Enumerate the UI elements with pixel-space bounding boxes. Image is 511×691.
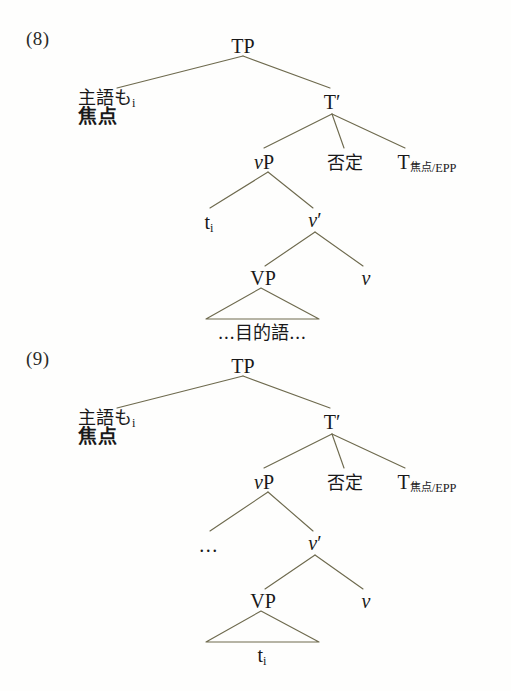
node-trace-spec-vp: ti [204,212,213,233]
node-big-vp: VP [250,591,276,612]
figure-9: (9) TP 主語もi 焦点 T′ vP 否定 T焦点/EPP ... v′ V… [0,345,511,691]
branch-vp-vbar [268,172,313,208]
little-v-letter: v [254,471,263,493]
t-head-letter: T [397,151,409,173]
trace-letter: t [257,644,263,666]
triangle-content-object: ...目的語... [218,322,306,343]
object-label: ...目的語... [218,322,306,343]
vbar-letter: v [308,532,317,554]
node-negation: 否定 [327,152,363,173]
page-canvas: (8) TP 主語もi 焦点 T′ vP 否定 T焦点/EPP ti v′ VP… [0,0,511,691]
branch-vp-spec [210,172,268,208]
trace-index: i [210,221,213,235]
triangle-content-trace: ti [257,645,266,666]
branch-vbar-v [315,232,363,266]
little-v-head-letter: v [362,267,371,289]
node-t-head: T焦点/EPP [397,152,456,173]
vbar-letter: v [308,209,317,231]
t-head-subscript-focus: 焦点 [410,161,432,174]
node-negation: 否定 [327,472,363,493]
subject-index: i [132,416,135,430]
branch-tp-subject [117,56,243,88]
node-ellipsis-spec-vp: ... [199,535,219,556]
branch-vbar-vp [265,555,315,589]
little-v-letter: v [254,151,263,173]
node-subject-spec-tp: 主語もi 焦点 [78,407,135,447]
example-number: (8) [26,28,50,50]
t-head-subscript-focus: 焦点 [410,481,432,494]
vbar-prime: ′ [317,209,321,231]
node-tbar: T′ [324,412,341,433]
node-t-head: T焦点/EPP [397,472,456,493]
node-big-vp: VP [250,268,276,289]
vbar-prime: ′ [317,532,321,554]
node-little-vp: vP [254,472,274,493]
little-v-head-letter: v [362,590,371,612]
triangle-vp [206,288,319,319]
branch-tp-tbar [243,56,330,88]
branch-tbar-t [332,434,405,468]
trace-index: i [263,654,266,668]
subject-focus-label: 焦点 [78,427,135,447]
branch-vbar-vp [265,232,315,266]
example-number: (9) [26,348,50,370]
node-vbar: v′ [308,210,321,231]
node-little-vp: vP [254,152,274,173]
branch-vp-spec [210,492,268,531]
subject-index: i [132,96,135,110]
negation-label: 否定 [327,472,363,493]
node-vbar: v′ [308,533,321,554]
t-head-letter: T [397,471,409,493]
t-head-subscript-epp: /EPP [432,161,457,175]
branch-tbar-t [332,114,405,148]
figure-8: (8) TP 主語もi 焦点 T′ vP 否定 T焦点/EPP ti v′ VP… [0,0,511,345]
p-letter: P [263,151,274,173]
node-little-v: v [362,591,371,612]
branch-vbar-v [315,555,363,589]
subject-focus-label: 焦点 [78,107,135,127]
t-head-subscript-epp: /EPP [432,481,457,495]
branch-tbar-vp [264,114,332,148]
branch-tp-subject [117,376,243,408]
branch-tbar-neg [332,114,344,148]
branch-tbar-neg [332,434,344,468]
tree-9-branches [0,345,511,691]
p-letter: P [263,471,274,493]
node-tbar: T′ [324,92,341,113]
trace-letter: t [204,211,210,233]
node-tp: TP [231,36,254,57]
node-little-v: v [362,268,371,289]
node-tp: TP [231,356,254,377]
negation-label: 否定 [327,152,363,173]
node-subject-spec-tp: 主語もi 焦点 [78,87,135,127]
branch-vp-vbar [268,492,313,531]
triangle-vp [206,611,319,642]
branch-tp-tbar [243,376,330,408]
branch-tbar-vp [264,434,332,468]
